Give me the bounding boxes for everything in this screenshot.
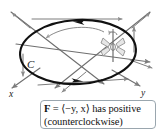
paddle-wheel-blade-sw (101, 47, 110, 56)
x-axis (12, 68, 40, 88)
field-arrow-upper-right (132, 13, 150, 28)
paddle-wheel-icon (101, 29, 125, 62)
y-axis (112, 70, 140, 86)
vector-field-figure: C x y F = ⟨−y, x⟩ has positive (counterc… (0, 0, 158, 131)
paddle-wheel-blade-ne (116, 38, 125, 47)
x-axis-label: x (8, 89, 14, 99)
counterclockwise-arrow-icon (46, 27, 104, 38)
ccw-arc (46, 27, 104, 38)
paddle-wheel-blade-se (116, 47, 125, 56)
caption-line-1-rest: = ⟨−y, x⟩ has positive (50, 103, 141, 114)
paddle-wheel-blade-nw (101, 38, 110, 47)
caption-box: F = ⟨−y, x⟩ has positive (counterclockwi… (40, 100, 156, 129)
curve-label-c: C (27, 58, 35, 70)
caption-line-1: F = ⟨−y, x⟩ has positive (44, 102, 152, 115)
y-axis-label: y (140, 88, 146, 98)
field-arrow-middle (16, 44, 150, 62)
field-arrow-upper-left (12, 13, 30, 28)
caption-line-2: (counterclockwise) (44, 115, 152, 128)
